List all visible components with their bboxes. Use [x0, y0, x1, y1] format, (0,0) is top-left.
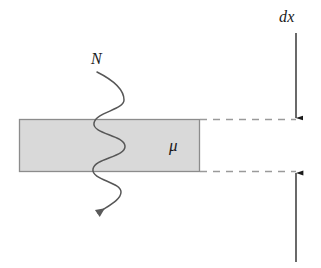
attenuation-coefficient-label: μ	[169, 136, 178, 156]
beam-label: N	[91, 50, 102, 68]
physics-diagram-figure: dx N μ	[0, 0, 321, 268]
thickness-label: dx	[279, 8, 295, 26]
diagram-canvas	[0, 0, 321, 268]
